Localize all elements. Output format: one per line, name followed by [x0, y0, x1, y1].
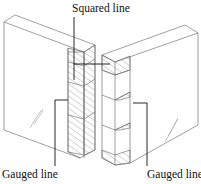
squared-line-label: Squared line	[72, 3, 130, 15]
left-board	[4, 15, 95, 158]
joint-drawing	[0, 0, 201, 184]
right-board	[102, 25, 198, 165]
gauged-line-left-label: Gauged line	[2, 169, 58, 181]
gauged-line-right-leader	[133, 103, 147, 166]
joint-diagram: Squared line Gauged line Gauged line	[0, 0, 201, 184]
gauged-line-right-label: Gauged line	[147, 169, 201, 181]
gauged-line-left-leader	[55, 100, 68, 166]
